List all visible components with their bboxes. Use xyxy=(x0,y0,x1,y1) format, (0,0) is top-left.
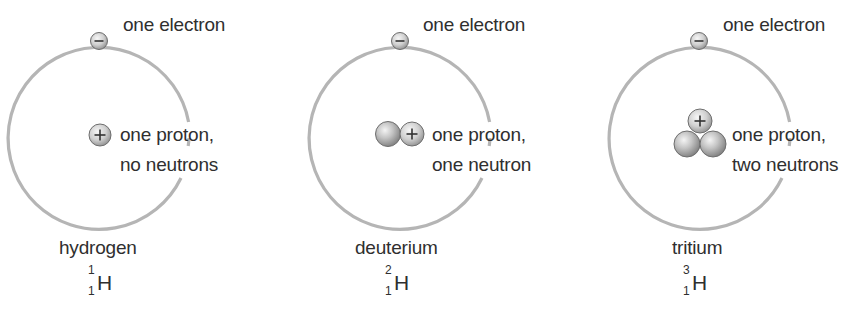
electron-label: one electron xyxy=(423,13,525,37)
nucleus-label-line1: one proton, xyxy=(732,123,826,147)
mass-number: 3 xyxy=(683,264,690,276)
mass-number: 2 xyxy=(385,264,392,276)
nucleus-label-line2: one neutron xyxy=(432,153,531,177)
isotope-name: tritium xyxy=(672,236,722,260)
mass-number: 1 xyxy=(88,264,95,276)
nucleus-label-line2: no neutrons xyxy=(120,153,218,177)
electron xyxy=(91,33,108,50)
electron xyxy=(392,33,409,50)
nucleus-label-line1: one proton, xyxy=(432,123,526,147)
isotope-name: deuterium xyxy=(355,236,438,260)
element-symbol: H xyxy=(692,272,707,294)
proton xyxy=(89,124,111,146)
proton xyxy=(400,122,424,146)
electron xyxy=(691,33,708,50)
neutron xyxy=(674,131,700,157)
neutron xyxy=(700,131,726,157)
neutron xyxy=(376,122,401,147)
electron-label: one electron xyxy=(123,13,225,37)
atomic-number: 1 xyxy=(88,285,95,297)
element-symbol: H xyxy=(97,272,112,294)
electron-label: one electron xyxy=(723,13,825,37)
nucleus-label-line1: one proton, xyxy=(120,123,214,147)
isotope-name: hydrogen xyxy=(59,236,137,260)
nucleus-label-line2: two neutrons xyxy=(732,153,838,177)
atomic-number: 1 xyxy=(683,285,690,297)
element-symbol: H xyxy=(394,272,409,294)
proton xyxy=(688,109,712,133)
atomic-number: 1 xyxy=(385,285,392,297)
